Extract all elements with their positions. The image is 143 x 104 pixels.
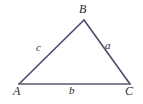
side-label-c: c: [36, 42, 41, 53]
vertex-label-c: C: [125, 85, 133, 97]
vertex-label-b: B: [79, 3, 86, 15]
triangle-figure: A B C c a b: [0, 0, 143, 104]
side-label-a: a: [105, 40, 111, 51]
vertex-label-a: A: [13, 85, 20, 97]
triangle-edge-c: [19, 20, 84, 84]
side-label-b: b: [69, 85, 75, 96]
triangle-edge-a: [84, 20, 130, 84]
